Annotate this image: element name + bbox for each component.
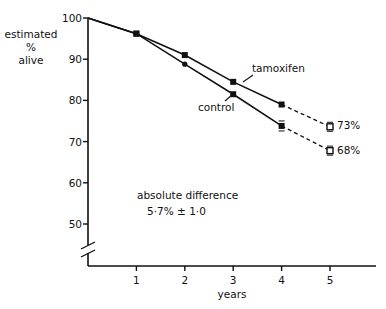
x-axis-label: years: [218, 288, 247, 300]
tamoxifen-marker-open: [327, 124, 333, 130]
x-tick-label: 1: [133, 274, 140, 286]
y-tick-label: 80: [69, 94, 82, 106]
tamoxifen-marker: [279, 102, 285, 108]
control-marker-open: [327, 148, 333, 154]
y-axis-label-line2: %: [26, 41, 36, 53]
tamoxifen-projection-line: [282, 105, 330, 127]
x-tick-label: 3: [230, 274, 237, 286]
control-projection-line: [282, 126, 330, 151]
y-tick-label: 90: [69, 53, 82, 65]
control-marker: [279, 123, 285, 129]
y-axis-label-line1: estimated: [5, 28, 58, 40]
control-leader: [225, 94, 233, 101]
survival-chart: 1009080706050 12345 estimated % alive ye…: [0, 0, 386, 309]
x-ticks: 12345: [133, 266, 333, 286]
tamoxifen-marker: [230, 79, 236, 85]
y-ticks: 1009080706050: [62, 12, 88, 230]
y-tick-label: 60: [69, 177, 82, 189]
tamoxifen-leader: [243, 75, 253, 82]
annotation-value: 5·7% ± 1·0: [147, 205, 206, 217]
y-tick-label: 70: [69, 136, 82, 148]
tamoxifen-label: tamoxifen: [252, 62, 305, 74]
x-tick-label: 2: [181, 274, 188, 286]
x-tick-label: 4: [278, 274, 285, 286]
y-tick-label: 50: [69, 218, 82, 230]
series-lines: [88, 18, 333, 155]
control-label: control: [198, 101, 234, 113]
y-axis-label-line3: alive: [19, 54, 44, 66]
annotation-title: absolute difference: [137, 189, 238, 201]
tamoxifen-end-value: 73%: [337, 119, 360, 131]
control-marker: [133, 31, 139, 37]
control-marker: [182, 62, 187, 67]
control-end-value: 68%: [337, 144, 360, 156]
x-tick-label: 5: [327, 274, 334, 286]
tamoxifen-marker: [182, 52, 188, 58]
y-tick-label: 100: [62, 12, 82, 24]
